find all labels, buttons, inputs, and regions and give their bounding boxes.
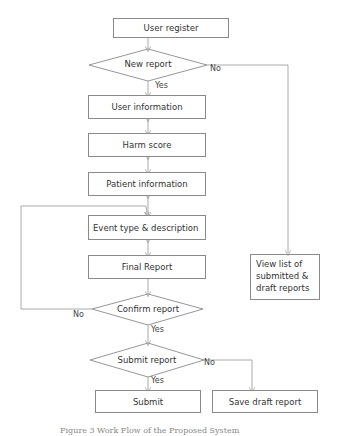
label-submit-no: No <box>204 358 215 367</box>
node-user-information: User information <box>88 95 206 119</box>
view-list-line-3: draft reports <box>256 282 314 294</box>
view-list-line-2: submitted & <box>256 270 314 282</box>
label-confirm-yes: Yes <box>151 325 164 334</box>
node-harm-score: Harm score <box>88 133 206 157</box>
node-save-draft-report: Save draft report <box>212 390 318 413</box>
node-view-list-reports: View list of submitted & draft reports <box>250 254 320 300</box>
node-submit-report: Submit report <box>118 355 177 365</box>
node-final-report: Final Report <box>88 255 206 279</box>
node-user-register: User register <box>113 18 229 38</box>
view-list-line-1: View list of <box>256 258 314 270</box>
figure-caption: Figure 3 Work Flow of the Proposed Syste… <box>60 426 239 435</box>
node-event-type-description: Event type & description <box>88 215 206 240</box>
node-submit: Submit <box>95 390 201 413</box>
node-patient-information: Patient information <box>88 172 206 196</box>
label-submit-yes: Yes <box>151 376 164 385</box>
node-new-report: New report <box>124 59 171 69</box>
label-confirm-no: No <box>73 310 84 319</box>
node-confirm-report: Confirm report <box>117 304 179 314</box>
label-new-report-no: No <box>210 64 221 73</box>
label-new-report-yes: Yes <box>155 81 168 90</box>
